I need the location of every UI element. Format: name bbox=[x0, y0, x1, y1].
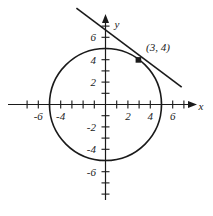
y-axis-arrowhead bbox=[102, 14, 109, 23]
x-tick-label-6: 6 bbox=[170, 110, 176, 122]
x-axis-label: x bbox=[198, 100, 204, 112]
x-tick-label-4: 4 bbox=[148, 110, 154, 122]
y-tick-label-2: 2 bbox=[91, 76, 97, 88]
y-tick-label--6: -6 bbox=[87, 166, 97, 178]
y-tick-label-6: 6 bbox=[91, 31, 97, 43]
tangent-point-marker bbox=[136, 57, 142, 63]
x-axis bbox=[8, 101, 197, 108]
coordinate-plane-svg: -6 -4 2 4 6 6 4 2 -2 -4 -6 x y (3, 4) bbox=[0, 0, 213, 216]
graph-figure: -6 -4 2 4 6 6 4 2 -2 -4 -6 x y (3, 4) bbox=[0, 0, 213, 216]
x-tick-label--4: -4 bbox=[56, 110, 66, 122]
x-axis-arrowhead bbox=[188, 101, 197, 108]
y-axis-label: y bbox=[114, 18, 120, 30]
y-tick-label--2: -2 bbox=[87, 121, 97, 133]
x-tick-label--6: -6 bbox=[34, 110, 44, 122]
y-tick-label--4: -4 bbox=[87, 143, 97, 155]
x-tick-label-2: 2 bbox=[125, 110, 131, 122]
tangent-point-label: (3, 4) bbox=[146, 41, 170, 54]
y-tick-label-4: 4 bbox=[91, 54, 97, 66]
